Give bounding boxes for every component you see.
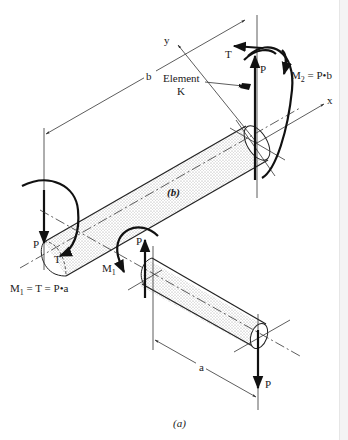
- shaft-b: [20, 108, 300, 276]
- dimension-b-label: b: [146, 70, 152, 82]
- load-p-a-label-up: P: [136, 235, 142, 247]
- page-edge: [339, 0, 348, 440]
- x-axis-label: x: [327, 94, 333, 106]
- dimension-a: a: [155, 340, 256, 397]
- torque-t-label-left: T: [54, 253, 61, 265]
- load-p-label-top: P: [260, 63, 266, 75]
- moment-m2-label: M2 = P•b: [291, 69, 332, 84]
- moment-m1-label: M1: [102, 262, 116, 277]
- load-p-label-left: P: [33, 238, 39, 250]
- element-k: Element K: [163, 72, 251, 97]
- caption-a: (a): [173, 417, 186, 430]
- dimension-b: b: [46, 20, 245, 134]
- element-k-label: K: [177, 85, 185, 97]
- element-label: Element: [163, 72, 200, 84]
- torque-t-label-top: T: [225, 48, 232, 60]
- load-p-left-down: P: [33, 190, 44, 250]
- x-axis: x: [257, 94, 333, 143]
- torsion-bending-diagram: x y b Element K P: [0, 0, 348, 440]
- equation-m1: M1 = T = P•a: [10, 282, 68, 297]
- caption-b: (b): [167, 186, 180, 199]
- load-p-a-label-down: P: [265, 378, 271, 390]
- panel-b: x y b Element K P: [20, 15, 333, 276]
- y-axis-label: y: [164, 34, 170, 46]
- shaft-a: [40, 210, 300, 356]
- dimension-a-label: a: [199, 361, 204, 373]
